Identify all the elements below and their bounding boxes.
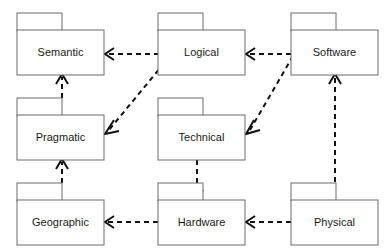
package-label: Semantic [38, 46, 84, 58]
package-tab [291, 183, 336, 201]
diagram-svg: Semantic Logical Software Pragmatic [0, 0, 392, 252]
dependency-software-to-logical[interactable] [246, 48, 291, 60]
package-hardware[interactable]: Hardware [158, 183, 245, 245]
package-label: Software [313, 46, 356, 58]
package-label: Technical [179, 131, 225, 143]
dependency-geographic-to-pragmatic[interactable] [56, 159, 68, 183]
package-label: Pragmatic [36, 131, 86, 143]
arrowhead-icon [246, 120, 260, 134]
package-diagram-canvas: Semantic Logical Software Pragmatic [0, 0, 392, 252]
dependency-hardware-to-geographic[interactable] [105, 216, 158, 228]
package-semantic[interactable]: Semantic [17, 13, 104, 75]
package-tab [291, 13, 336, 31]
package-label: Logical [184, 46, 219, 58]
package-layer: Semantic Logical Software Pragmatic [17, 13, 378, 245]
dependency-software-to-technical[interactable] [246, 56, 293, 134]
dependency-line [250, 56, 293, 130]
package-tab [17, 183, 62, 201]
package-technical[interactable]: Technical [158, 98, 245, 160]
package-software[interactable]: Software [291, 13, 378, 75]
package-label: Geographic [32, 216, 89, 228]
dependency-pragmatic-to-semantic[interactable] [56, 74, 68, 98]
dependency-physical-to-software[interactable] [329, 74, 341, 200]
package-logical[interactable]: Logical [158, 13, 245, 75]
package-label: Physical [314, 216, 355, 228]
package-tab [17, 13, 62, 31]
package-tab [158, 98, 203, 116]
package-geographic[interactable]: Geographic [17, 183, 104, 245]
package-pragmatic[interactable]: Pragmatic [17, 98, 104, 160]
package-tab [158, 13, 203, 31]
package-tab [17, 98, 62, 116]
dependency-physical-to-hardware[interactable] [246, 216, 291, 228]
package-physical[interactable]: Physical [291, 183, 378, 245]
package-label: Hardware [178, 216, 226, 228]
package-tab [158, 183, 203, 201]
